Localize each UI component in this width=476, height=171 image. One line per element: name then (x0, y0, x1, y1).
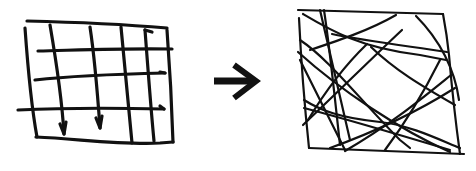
right-arrow-icon (214, 65, 256, 98)
ordered-grid-sketch (18, 21, 173, 143)
diagram-canvas (0, 0, 476, 171)
tangled-lines-sketch (298, 10, 464, 154)
